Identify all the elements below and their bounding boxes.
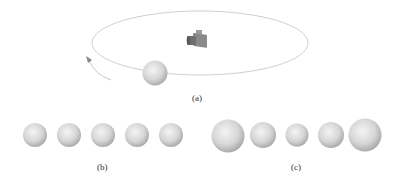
sphere-icon: [23, 123, 47, 147]
rotation-arrow-icon: [89, 60, 111, 80]
sphere-icon: [143, 61, 168, 86]
sphere-icon: [212, 120, 245, 153]
sphere-icon: [159, 123, 183, 147]
camera-icon: [187, 30, 207, 48]
sphere-icon: [250, 122, 276, 148]
caption-b: (b): [97, 162, 108, 172]
sphere-icon: [286, 124, 309, 147]
panel-a: [86, 11, 308, 86]
caption-a: (a): [192, 93, 202, 103]
arrow-head: [86, 56, 92, 63]
figure: (a) (b) (c): [0, 0, 406, 185]
sphere-icon: [57, 123, 81, 147]
panel-c: [212, 119, 382, 153]
sphere-icon: [349, 119, 382, 152]
sphere-icon: [91, 123, 115, 147]
sphere-icon: [318, 122, 344, 148]
panel-b: [23, 123, 183, 147]
caption-c: (c): [291, 162, 301, 172]
sphere-icon: [125, 123, 149, 147]
